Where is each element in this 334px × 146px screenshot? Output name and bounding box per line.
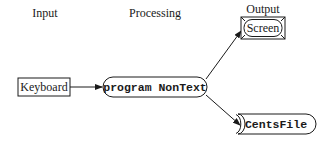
column-header-processing: Processing	[129, 6, 181, 20]
edge-program-to-screen	[206, 31, 241, 79]
column-header-output: Output	[246, 2, 280, 16]
edge-program-to-centsfile	[206, 95, 240, 125]
io-flow-diagram: Input Processing Output Keyboard program…	[0, 0, 334, 146]
centsfile-label: CentsFile	[245, 118, 307, 131]
column-header-input: Input	[32, 6, 58, 20]
screen-label: Screen	[247, 21, 280, 35]
program-label: program NonText	[103, 81, 207, 94]
screen-node: Screen	[241, 17, 285, 39]
keyboard-label: Keyboard	[20, 80, 67, 94]
program-node: program NonText	[103, 77, 207, 97]
centsfile-node: CentsFile	[236, 114, 316, 134]
keyboard-node: Keyboard	[18, 78, 70, 96]
